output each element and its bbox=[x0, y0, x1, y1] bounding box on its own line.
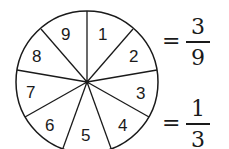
equals-sign: = bbox=[162, 30, 180, 52]
segment-label-2: 2 bbox=[129, 47, 138, 66]
segment-label-9: 9 bbox=[61, 25, 70, 44]
fraction-bar bbox=[186, 41, 210, 43]
segment-label-1: 1 bbox=[98, 25, 107, 44]
denominator: 3 bbox=[186, 129, 210, 149]
segment-label-6: 6 bbox=[45, 116, 54, 135]
segment-label-7: 7 bbox=[26, 83, 35, 102]
segment-label-5: 5 bbox=[81, 126, 90, 145]
spinner-diagram: 1 2 3 4 5 6 7 8 9 = 3 9 = 1 3 bbox=[0, 0, 229, 149]
fraction-bar bbox=[186, 123, 210, 125]
numerator: 3 bbox=[186, 16, 210, 38]
segment-label-4: 4 bbox=[118, 116, 127, 135]
segment-label-8: 8 bbox=[32, 47, 41, 66]
denominator: 9 bbox=[186, 47, 210, 69]
equals-sign: = bbox=[162, 112, 180, 134]
numerator: 1 bbox=[186, 98, 210, 120]
segment-label-3: 3 bbox=[136, 84, 145, 103]
